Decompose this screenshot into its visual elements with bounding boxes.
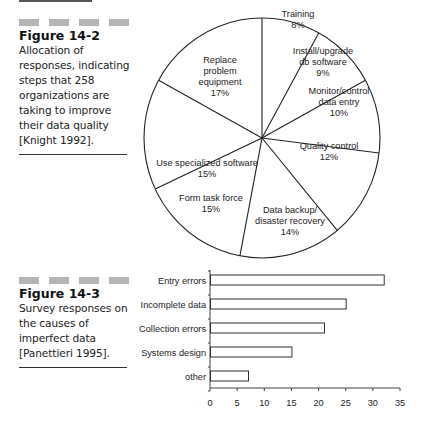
bar bbox=[211, 323, 325, 333]
category-label: other bbox=[185, 372, 206, 382]
x-tick-label: 30 bbox=[368, 398, 378, 408]
pie-chart: Training8%Install/upgradedb software9%Mo… bbox=[0, 0, 437, 270]
bar bbox=[211, 347, 292, 357]
x-tick-label: 0 bbox=[207, 398, 212, 408]
bar bbox=[211, 299, 347, 309]
x-tick-label: 25 bbox=[341, 398, 351, 408]
category-label: Incomplete data bbox=[141, 300, 207, 310]
x-tick-label: 20 bbox=[313, 398, 323, 408]
category-label: Systems design bbox=[141, 348, 206, 358]
bars bbox=[211, 275, 385, 381]
x-tick-labels: 05101520253035 bbox=[207, 398, 405, 408]
x-tick-label: 15 bbox=[286, 398, 296, 408]
category-label: Entry errors bbox=[158, 276, 206, 286]
bar-chart: Entry errorsIncomplete dataCollection er… bbox=[0, 270, 437, 436]
bar bbox=[211, 371, 249, 381]
x-tick-label: 35 bbox=[395, 398, 405, 408]
category-labels: Entry errorsIncomplete dataCollection er… bbox=[139, 276, 207, 382]
x-tick-label: 5 bbox=[235, 398, 240, 408]
category-label: Collection errors bbox=[139, 324, 206, 334]
x-tick-label: 10 bbox=[259, 398, 269, 408]
bar bbox=[211, 275, 385, 285]
